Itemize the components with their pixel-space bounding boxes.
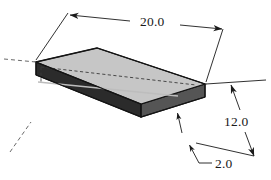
dimension-2-inner-arrow (178, 113, 183, 133)
dimension-12-label: 12.0 (224, 114, 248, 129)
dimension-2-leader (190, 145, 213, 163)
isometric-block-drawing: 20.0 12.0 2.0 (0, 0, 271, 180)
dimension-20-extension-left (36, 13, 68, 60)
centerline-left-upper (4, 59, 36, 62)
dimension-12-extension-lower (196, 143, 254, 156)
dimension-12-line-upper (231, 85, 240, 110)
centerline-left-lower (10, 122, 31, 152)
centerlines-group (4, 59, 36, 152)
dimension-20-label: 20.0 (140, 14, 164, 29)
dimension-20-line-left (70, 15, 130, 21)
dimension-20-line-right (180, 25, 222, 29)
dimension-20-extension-right (206, 29, 223, 82)
block-solid (36, 48, 205, 117)
dimension-12-group: 12.0 (196, 80, 266, 156)
dimension-2-label: 2.0 (215, 156, 233, 171)
dimension-12-line-lower (245, 132, 254, 156)
dimension-12-extension-upper (206, 80, 266, 84)
